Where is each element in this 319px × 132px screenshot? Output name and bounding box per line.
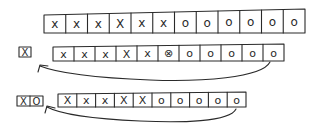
cell-mark: o [225,15,232,29]
cell-mark: x [60,48,67,61]
diagram-canvas: xxxXxxoooooo X xxxXx⊗ooooo XO XxxXXooooo [0,0,319,132]
cell-mark: X [116,17,124,31]
cell-mark: x [102,48,109,61]
cell-mark: o [290,15,297,29]
row-1-strip: xxxXxxoooooo [44,9,305,33]
cell-mark: x [83,94,90,107]
cell-mark: o [203,16,210,30]
row-3-strip: XxxXXooooo [58,92,246,107]
cell-mark: o [158,94,165,107]
cell-mark: o [177,94,184,107]
cell-mark: x [138,16,145,30]
row-2-return-arrow [40,62,270,80]
row-2-pile: X [19,47,31,58]
cell-mark: o [196,94,203,107]
cell-mark: X [120,94,128,107]
cell-mark: o [249,47,256,60]
cell-mark: x [73,17,80,31]
row-2-strip: xxxXx⊗ooooo [53,44,284,61]
cell-mark: x [144,47,151,60]
cell-mark: o [186,47,193,60]
cell-mark: X [20,96,27,107]
cell-mark: o [233,94,240,107]
row-3-return-arrow [47,107,236,122]
cell-mark: X [64,94,72,107]
cell-mark: o [214,94,221,107]
cell-mark: x [160,16,167,30]
cell-mark: ⊗ [164,47,173,60]
cell-mark: x [51,17,58,31]
cell-mark: X [139,94,147,107]
cell-mark: o [247,15,254,29]
cell-mark: o [228,47,235,60]
cell-mark: x [95,17,102,31]
cell-mark: o [269,15,276,29]
cell-mark: x [81,48,88,61]
cell-mark: o [207,47,214,60]
cell-mark: o [182,16,189,30]
cell-mark: o [270,47,277,60]
cell-mark: X [22,47,29,58]
cell-mark: X [123,48,131,61]
row-3-pile: XO [17,96,43,107]
cell-mark: O [33,96,41,107]
cell-mark: x [102,94,109,107]
